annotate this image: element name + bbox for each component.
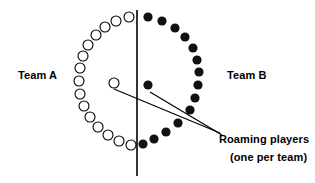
team-a-player-marker — [103, 130, 113, 140]
team-b-player-marker — [161, 127, 170, 136]
team-b-player-marker — [149, 134, 158, 143]
team-a-player-marker — [75, 89, 85, 99]
team-b-player-marker — [180, 32, 189, 41]
team-b-player-marker — [170, 23, 179, 32]
team-a-player-marker — [126, 140, 136, 150]
team-a-player-marker — [100, 22, 110, 32]
roaming-players-sublabel: (one per team) — [230, 151, 307, 163]
leader-line-to-team-a-roamer — [114, 89, 220, 133]
roaming-players-label: Roaming players — [219, 133, 309, 145]
team-b-player-marker — [143, 12, 152, 21]
team-a-player-marker — [124, 12, 134, 22]
team-b-player-marker — [188, 43, 197, 52]
team-a-player-marker — [114, 136, 124, 146]
team-a-player-marker — [83, 40, 93, 50]
team-a-player-marker — [85, 112, 95, 122]
team-a-player-marker — [75, 63, 85, 73]
team-b-player-marker — [157, 16, 166, 25]
roaming-player-team-a-marker — [109, 78, 119, 88]
leader-line-to-team-b-roamer — [150, 92, 222, 135]
team-a-player-marker — [79, 101, 89, 111]
team-a-label: Team A — [18, 69, 57, 81]
team-a-player-marker — [78, 51, 88, 61]
team-b-label: Team B — [227, 69, 267, 81]
team-a-player-marker — [91, 30, 101, 40]
team-b-player-marker — [192, 55, 201, 64]
roaming-player-team-b-marker — [143, 80, 152, 89]
team-b-player-marker — [194, 67, 203, 76]
team-b-player-marker — [193, 80, 202, 89]
team-a-player-marker — [93, 122, 103, 132]
team-b-player-marker — [173, 118, 182, 127]
team-a-player-marker — [111, 16, 121, 26]
team-b-player-marker — [138, 139, 147, 148]
team-a-player-marker — [74, 76, 84, 86]
team-b-player-marker — [185, 105, 194, 114]
team-b-player-marker — [190, 93, 199, 102]
diagram-canvas: Team A Team B Roaming players (one per t… — [0, 0, 315, 183]
